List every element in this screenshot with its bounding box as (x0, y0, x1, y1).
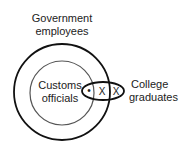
label-government-line1: Government (32, 12, 93, 24)
label-customs-line2: officials (42, 92, 79, 104)
label-customs-line1: Customs (38, 79, 82, 91)
x-mark-outside: X (113, 86, 120, 97)
x-mark-inside: X (99, 86, 106, 97)
venn-diagram: Government employees Customs officials C… (0, 0, 190, 145)
label-government-line2: employees (35, 25, 89, 37)
label-college-line1: College (131, 78, 168, 90)
label-college-line2: graduates (129, 91, 178, 103)
dot-mark: • (87, 85, 91, 96)
